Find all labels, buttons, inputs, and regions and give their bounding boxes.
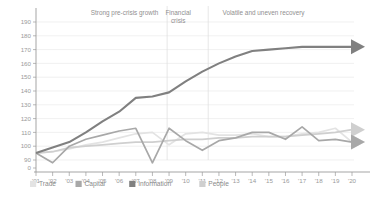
chart-container: 090100110120130140150160170180190'01'02'… bbox=[0, 0, 376, 200]
y-axis-tick-label: 190 bbox=[21, 18, 32, 25]
x-axis-tick-label: '03 bbox=[65, 177, 74, 184]
annotation-label: Strong pre-crisis growth bbox=[91, 9, 159, 17]
legend-swatch-trade[interactable] bbox=[30, 181, 36, 187]
y-axis-tick-label: 100 bbox=[21, 142, 32, 149]
annotation-dividers bbox=[167, 6, 208, 160]
legend-label-trade[interactable]: Trade bbox=[39, 180, 56, 187]
x-axis-tick-label: '20 bbox=[348, 177, 357, 184]
x-axis-tick-label: '19 bbox=[331, 177, 340, 184]
y-axis-tick-label: 110 bbox=[21, 129, 31, 136]
line-chart: 090100110120130140150160170180190'01'02'… bbox=[0, 0, 376, 200]
x-axis-tick-label: '13 bbox=[232, 177, 241, 184]
x-axis-tick-label: '06 bbox=[115, 177, 124, 184]
x-axis-tick-label: '17 bbox=[298, 177, 307, 184]
x-axis-tick-label: '15 bbox=[265, 177, 274, 184]
arrowhead-icon-capital bbox=[351, 135, 365, 150]
legend-label-people[interactable]: People bbox=[208, 180, 229, 188]
y-axis-tick-label: 90 bbox=[24, 156, 31, 163]
legend-swatch-information[interactable] bbox=[129, 181, 135, 187]
x-axis-tick-label: '18 bbox=[315, 177, 324, 184]
series-line-information bbox=[36, 47, 352, 153]
y-axis-tick-label: 130 bbox=[21, 101, 32, 108]
axes bbox=[34, 8, 370, 172]
x-axis-tick-label: '14 bbox=[248, 177, 257, 184]
arrowhead-icon-information bbox=[351, 39, 365, 54]
legend-label-capital[interactable]: Capital bbox=[85, 180, 106, 188]
legend-label-information[interactable]: Information bbox=[138, 180, 171, 187]
legend-swatch-capital[interactable] bbox=[76, 181, 82, 187]
y-axis-tick-label: 120 bbox=[21, 115, 32, 122]
y-axis-tick-label: 180 bbox=[21, 32, 32, 39]
annotation-label: Volatile and uneven recovery bbox=[222, 9, 305, 17]
y-axis-tick-label: 150 bbox=[21, 73, 32, 80]
y-axis-tick-label: 160 bbox=[21, 60, 32, 67]
y-axis-tick-label: 170 bbox=[21, 46, 32, 53]
y-axis-tick-label: 0 bbox=[28, 164, 32, 171]
arrowhead-icon-people bbox=[351, 122, 365, 137]
legend-swatch-people[interactable] bbox=[199, 181, 205, 187]
x-axis-tick-label: '16 bbox=[281, 177, 290, 184]
series-group bbox=[36, 39, 365, 162]
y-axis-tick-label: 140 bbox=[21, 87, 32, 94]
x-axis-tick-label: '10 bbox=[182, 177, 191, 184]
